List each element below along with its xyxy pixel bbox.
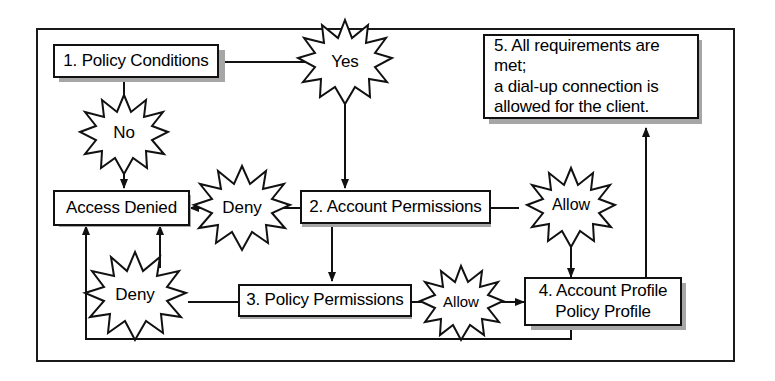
node-policy-conditions-label: 1. Policy Conditions [63,51,208,71]
node-policy-permissions[interactable]: 3. Policy Permissions [238,284,412,317]
node-policy-conditions[interactable]: 1. Policy Conditions [53,44,219,78]
node-policy-permissions-label: 3. Policy Permissions [246,290,403,310]
node-account-profile-line-1: 4. Account Profile [526,281,680,301]
flowchart-canvas: 1. Policy Conditions Access Denied 2. Ac… [0,0,775,381]
node-all-requirements-line-1: 5. All requirements are met; [494,36,688,76]
node-account-profile-line-2: Policy Profile [526,302,680,322]
node-access-denied[interactable]: Access Denied [53,190,190,226]
node-account-profile[interactable]: 4. Account Profile Policy Profile [524,277,682,326]
node-all-requirements-line-3: allowed for the client. [494,97,688,117]
node-account-permissions[interactable]: 2. Account Permissions [300,190,491,224]
node-account-permissions-label: 2. Account Permissions [309,197,481,217]
node-access-denied-label: Access Denied [66,198,177,218]
node-all-requirements-line-2: a dial-up connection is [494,77,688,97]
node-all-requirements[interactable]: 5. All requirements are met; a dial-up c… [483,34,699,119]
